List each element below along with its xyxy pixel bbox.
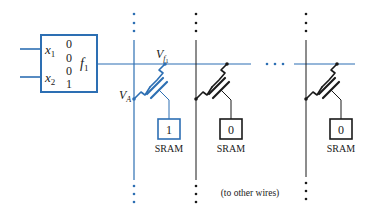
truth-value-2: 0 xyxy=(66,64,72,78)
label-v-a: VA xyxy=(119,88,131,104)
programmable-switch-diagram: x1 x2 0 0 0 1 f1 Vf1 VA 1 0 0 SRAM SRAM … xyxy=(0,0,378,216)
footer-note: (to other wires) xyxy=(221,188,280,199)
column-1 xyxy=(132,13,180,204)
truth-value-1: 0 xyxy=(66,51,72,65)
label-v-f1: Vf1 xyxy=(156,47,169,64)
sram-label-3: SRAM xyxy=(327,143,355,154)
sram-value-3: 0 xyxy=(338,123,344,137)
sram-value-2: 0 xyxy=(228,123,234,137)
sram-label-1: SRAM xyxy=(155,143,183,154)
pass-transistor-3 xyxy=(304,62,341,119)
truth-value-0: 0 xyxy=(66,37,72,51)
sram-value-1: 1 xyxy=(166,123,172,137)
pass-transistor-1 xyxy=(132,62,169,119)
pass-transistor-2 xyxy=(194,62,231,119)
column-2 xyxy=(194,13,242,204)
truth-value-3: 1 xyxy=(66,77,72,91)
ellipsis-dot xyxy=(266,63,269,66)
ellipsis-dot xyxy=(274,63,277,66)
sram-label-2: SRAM xyxy=(217,143,245,154)
ellipsis-dot xyxy=(282,63,285,66)
column-3 xyxy=(304,13,352,201)
